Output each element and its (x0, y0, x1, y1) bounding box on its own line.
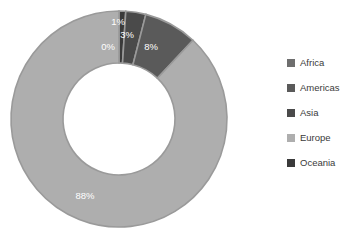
legend-swatch-icon-asia (287, 109, 295, 117)
legend-item-oceania[interactable]: Oceania (287, 157, 362, 169)
donut-slices-group (11, 11, 227, 227)
legend-label: Oceania (300, 157, 335, 169)
legend-label: Asia (300, 107, 318, 119)
slice-label-asia: 3% (120, 29, 134, 40)
slice-label-oceania: 1% (111, 16, 125, 27)
legend-item-americas[interactable]: Americas (287, 82, 362, 94)
legend-item-europe[interactable]: Europe (287, 132, 362, 144)
donut-slice-europe[interactable] (11, 11, 227, 227)
legend-item-asia[interactable]: Asia (287, 107, 362, 119)
slice-label-africa: 0% (101, 41, 115, 52)
legend-swatch-icon-oceania (287, 159, 295, 167)
slice-label-americas: 8% (144, 41, 158, 52)
legend-item-africa[interactable]: Africa (287, 57, 362, 69)
legend-swatch-icon-africa (287, 59, 295, 67)
donut-plot-area: 1%3%8%88%0% (0, 0, 240, 236)
legend-swatch-icon-europe (287, 134, 295, 142)
legend-swatch-icon-americas (287, 84, 295, 92)
slice-label-europe: 88% (75, 190, 95, 201)
donut-svg: 1%3%8%88%0% (0, 0, 240, 236)
legend-label: Americas (300, 82, 340, 94)
legend-label: Africa (300, 57, 324, 69)
legend-label: Europe (300, 132, 331, 144)
chart-legend: AfricaAmericasAsiaEuropeOceania (287, 57, 362, 169)
donut-chart-container: 1%3%8%88%0% AfricaAmericasAsiaEuropeOcea… (0, 0, 362, 236)
